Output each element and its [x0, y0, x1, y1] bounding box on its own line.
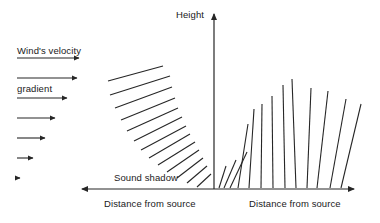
refracted-ray [307, 88, 311, 188]
refracted-ray [249, 109, 254, 188]
refracted-ray [272, 96, 273, 188]
refracted-sound-rays [219, 79, 361, 188]
shadow-ray [177, 158, 203, 178]
refracted-ray [238, 124, 248, 188]
refracted-ray [261, 104, 262, 188]
shadow-ray [108, 66, 163, 81]
axes-group [82, 14, 354, 189]
shadow-ray [134, 117, 182, 141]
wind-gradient-label-line1: Wind's velocity [17, 45, 81, 58]
height-axis-label: Height [176, 9, 204, 22]
shadow-ray [197, 174, 211, 187]
refracted-ray [317, 91, 328, 188]
shadow-ray [127, 108, 178, 131]
sound-shadow-label: Sound shadow [114, 172, 178, 185]
shadow-ray [158, 142, 195, 165]
distance-axis-left-label: Distance from source [104, 198, 196, 211]
wind-gradient-label: Wind's velocity gradient [17, 20, 81, 120]
refracted-ray [341, 104, 361, 188]
refracted-ray [283, 85, 285, 188]
distance-axis-right-label: Distance from source [249, 198, 341, 211]
wind-gradient-label-line2: gradient [17, 83, 81, 96]
shadow-ray [121, 98, 175, 120]
shadow-ray [167, 150, 199, 172]
refracted-ray [330, 99, 346, 188]
shadow-ray [149, 134, 190, 158]
shadow-ray [141, 126, 186, 150]
refracted-ray [292, 79, 296, 188]
sound-shadow-rays [108, 66, 211, 187]
sound-shadow-diagram: Wind's velocity gradient Height Sound sh… [0, 0, 380, 223]
refracted-ray [224, 160, 236, 188]
shadow-ray [110, 76, 170, 95]
